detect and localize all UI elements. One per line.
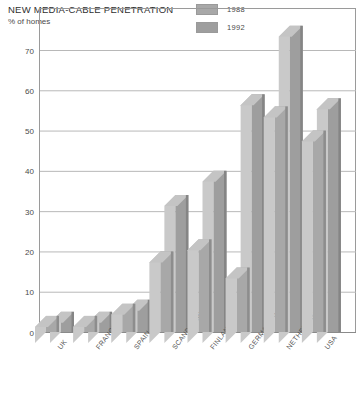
y-tick-label: 40: [25, 167, 34, 176]
bar-depth-face: [149, 251, 160, 343]
bar-1988: [226, 268, 250, 343]
bar-depth-face: [264, 106, 275, 343]
bar-chart-svg: 010203040506070UKFRANCESPAINSCANDINAVIAF…: [0, 0, 364, 401]
y-tick-label: 60: [25, 87, 34, 96]
y-tick-label: 30: [25, 208, 34, 217]
bar-group: [226, 94, 265, 343]
bar-depth-face: [302, 131, 313, 343]
bar-side-shade: [247, 268, 250, 332]
y-tick-label: 20: [25, 248, 34, 257]
bar-group: [188, 171, 227, 343]
bar-1988: [149, 251, 173, 343]
y-tick-label: 50: [25, 127, 34, 136]
bar-1988: [35, 316, 59, 343]
bar-1988: [302, 131, 326, 343]
bar-depth-face: [188, 239, 199, 343]
bar-group: [302, 98, 341, 343]
bar-1988: [188, 239, 212, 343]
bar-group: [35, 312, 74, 343]
bar-side-shade: [133, 304, 136, 332]
x-category-label: UK: [56, 338, 68, 350]
y-tick-label: 0: [30, 329, 35, 338]
chart-container: NEW MEDIA-CABLE PENETRATION % of homes 1…: [0, 0, 364, 401]
y-tick-label: 10: [25, 288, 34, 297]
bar-1988: [264, 106, 288, 343]
bar-side-shade: [338, 98, 341, 332]
chart-plot-area: 010203040506070UKFRANCESPAINSCANDINAVIAF…: [0, 0, 364, 401]
bar-side-shade: [323, 131, 326, 332]
bar-side-shade: [57, 316, 60, 332]
bar-side-shade: [285, 106, 288, 332]
bar-side-shade: [171, 251, 174, 332]
bar-depth-face: [226, 268, 237, 343]
bar-side-shade: [209, 239, 212, 332]
bar-1988: [73, 316, 97, 343]
bar-group: [264, 26, 303, 343]
x-category-label: USA: [323, 334, 338, 350]
bar-group: [149, 195, 188, 343]
bar-side-shade: [95, 316, 98, 332]
y-tick-label: 70: [25, 47, 34, 56]
